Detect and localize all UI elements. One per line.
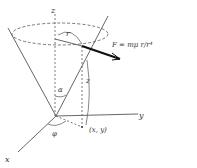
- x-axis: [18, 116, 56, 152]
- cone-side-left: [8, 28, 56, 116]
- r-arc: [58, 32, 82, 44]
- force-equation: F = mμ r/r⁴: [111, 41, 153, 49]
- z-axis-label: z: [50, 6, 56, 15]
- xy-projection-line: [56, 116, 82, 127]
- r-label: r: [66, 29, 71, 38]
- xy-point: [81, 126, 83, 128]
- x-axis-label: x: [5, 155, 10, 164]
- z-height-label: z: [85, 77, 90, 85]
- cone-diagram: z y x r z α φ (x, y) F = mμ r/r⁴: [0, 0, 197, 168]
- alpha-label: α: [58, 86, 63, 94]
- phi-arc: [48, 121, 66, 125]
- point-label: (x, y): [89, 126, 107, 134]
- alpha-arc: [55, 95, 66, 97]
- y-axis: [56, 114, 138, 116]
- y-axis-label: y: [138, 111, 144, 120]
- phi-label: φ: [52, 130, 57, 138]
